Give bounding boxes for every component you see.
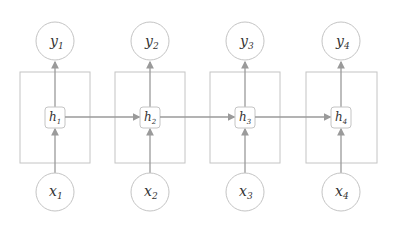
rnn-diagram: y1 h1 x1 y2 h2 x2 y3 h3 x3 y4 h4 <box>0 0 395 225</box>
